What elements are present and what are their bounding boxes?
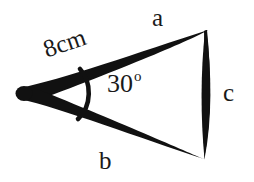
geometry-figure: a b c 8cm 30o [0, 0, 254, 182]
vertex-blob [16, 86, 33, 101]
side-a-label: a [152, 5, 163, 30]
angle-label: 30o [107, 70, 142, 97]
side-b-label: b [99, 148, 112, 173]
side-c-label: c [223, 80, 234, 105]
degree-icon: o [134, 68, 142, 84]
angle-value: 30 [107, 69, 133, 98]
side-c-stroke-body [202, 31, 211, 159]
side-b-stroke [20, 87, 204, 159]
